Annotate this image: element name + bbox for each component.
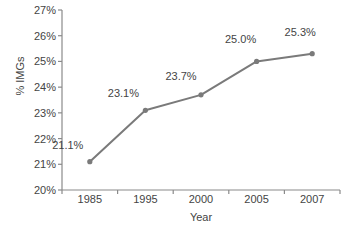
data-value-label: 21.1% xyxy=(52,139,83,151)
data-value-label: 23.1% xyxy=(108,87,139,99)
data-point-marker xyxy=(143,108,148,113)
data-value-label: 25.0% xyxy=(225,33,256,45)
data-point-marker xyxy=(198,92,203,97)
x-tick-label: 1985 xyxy=(62,193,118,205)
data-point-marker xyxy=(87,159,92,164)
data-point-marker xyxy=(254,59,259,64)
chart-container: % IMGs 20%21%22%23%24%25%26%27% 19851995… xyxy=(0,0,357,234)
x-axis-title: Year xyxy=(62,211,340,223)
data-point-markers xyxy=(87,51,315,164)
data-value-label: 23.7% xyxy=(165,70,196,82)
x-tick-label: 2007 xyxy=(284,193,340,205)
data-value-label: 25.3% xyxy=(285,26,316,38)
x-tick-label: 2000 xyxy=(173,193,229,205)
data-point-marker xyxy=(310,51,315,56)
x-tick-label: 2005 xyxy=(229,193,285,205)
x-tick-label: 1995 xyxy=(117,193,173,205)
data-line-series xyxy=(90,54,312,162)
